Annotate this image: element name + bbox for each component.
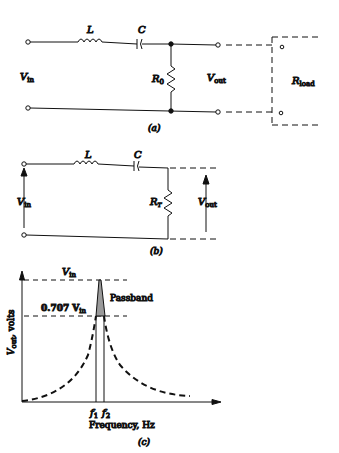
arrow-up-icon <box>21 168 27 176</box>
capacitor-label-a: C <box>138 24 146 35</box>
x-axis-label: Frequency, Hz <box>89 420 155 430</box>
vout-label-b: Vout <box>198 196 217 209</box>
load-terminal-top <box>280 45 284 49</box>
caption-a: (a) <box>148 123 161 133</box>
terminal-in-bottom <box>26 106 30 110</box>
resistor-icon <box>167 66 175 92</box>
vin-label-a: Vin <box>20 71 34 84</box>
load-terminal-bottom <box>279 111 283 115</box>
caption-b: (b) <box>150 246 163 256</box>
vout-label-a: Vout <box>207 72 226 85</box>
inductor-label-b: L <box>84 149 92 160</box>
load-label: Rload <box>291 75 315 88</box>
passband-region <box>96 280 105 316</box>
caption-c: (c) <box>138 437 151 447</box>
resistor-label-b: RT <box>149 196 163 208</box>
resistor-label-a: R0 <box>151 73 164 86</box>
terminal-out-bottom <box>216 110 220 114</box>
inductor-icon <box>78 39 102 42</box>
terminal-in-top <box>26 40 30 44</box>
capacitor-label-b: C <box>134 149 142 160</box>
terminal-out-top <box>216 43 220 47</box>
inductor-icon-b <box>74 161 98 164</box>
figure-canvas: L C Vin R0 Vout Rload (a) L C Vin RT Vou… <box>0 0 339 453</box>
circuit-b <box>21 161 220 239</box>
f1-label: f1 <box>89 407 98 420</box>
arrow-up-icon-vout <box>203 175 209 184</box>
y-axis-label: Vout, volts <box>6 309 18 355</box>
chart-c <box>20 271 222 405</box>
vin-level-label: Vin <box>62 266 76 279</box>
half-power-label: 0.707 Vin <box>41 303 87 315</box>
inductor-label-a: L <box>86 24 94 35</box>
circuit-a <box>26 37 322 125</box>
resistor-icon-b <box>164 190 172 216</box>
passband-label: Passband <box>110 293 153 303</box>
f2-label: f2 <box>101 407 110 420</box>
